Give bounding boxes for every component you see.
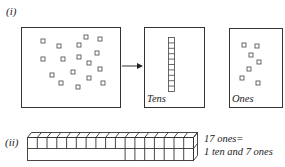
- seventeen-rod: [28, 133, 198, 161]
- caption-line-1: 17 ones=: [204, 133, 243, 145]
- loose-squares: [41, 35, 105, 89]
- tens-label: Tens: [147, 93, 166, 104]
- loose-ones-panel: [22, 28, 121, 108]
- ones-squares: [240, 43, 261, 85]
- ones-label: Ones: [232, 93, 254, 104]
- part-ii-label: (ii): [5, 136, 18, 148]
- right-arrow-icon: [122, 63, 143, 69]
- caption-line-2: 1 ten and 7 ones: [204, 146, 273, 158]
- tens-rod: [169, 38, 175, 92]
